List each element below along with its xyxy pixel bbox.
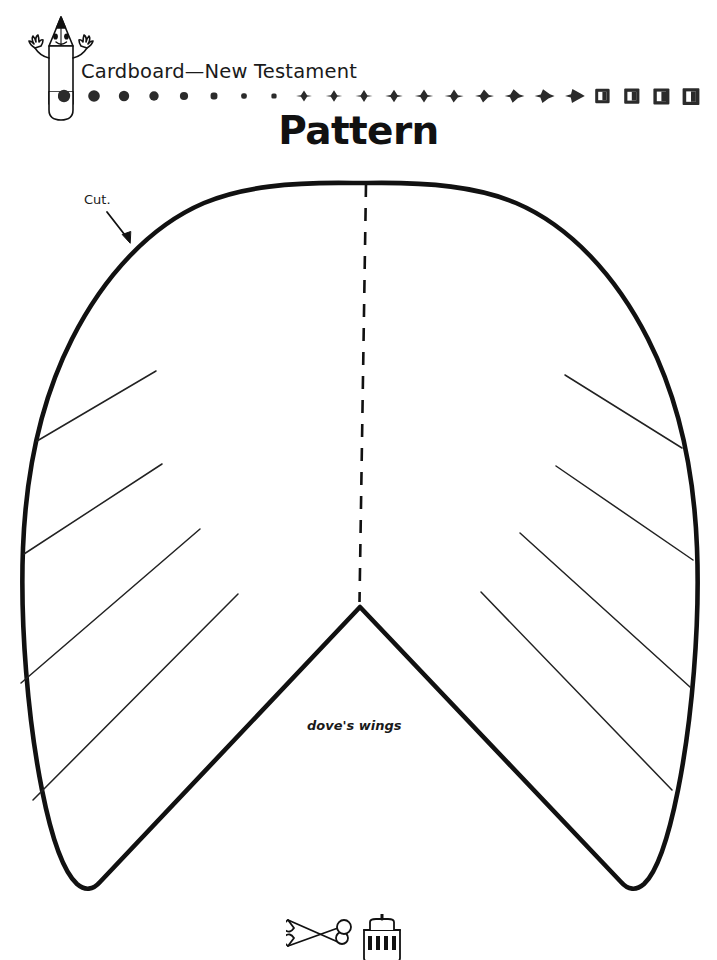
feather-lines-left (21, 371, 238, 800)
dove-wings-outline-icon (22, 183, 697, 889)
feather-lines-right (481, 375, 693, 790)
arrow-down-right-icon (107, 212, 130, 243)
pattern-worksheet-page: Cardboard—New Testament (0, 0, 717, 960)
part-name-label: dove's wings (307, 718, 402, 733)
dove-wings-pattern-art (0, 0, 717, 960)
dashed-fold-line-icon (360, 184, 367, 602)
cut-instruction-label: Cut. (84, 192, 111, 207)
scissors-and-glue-icon (286, 914, 436, 960)
